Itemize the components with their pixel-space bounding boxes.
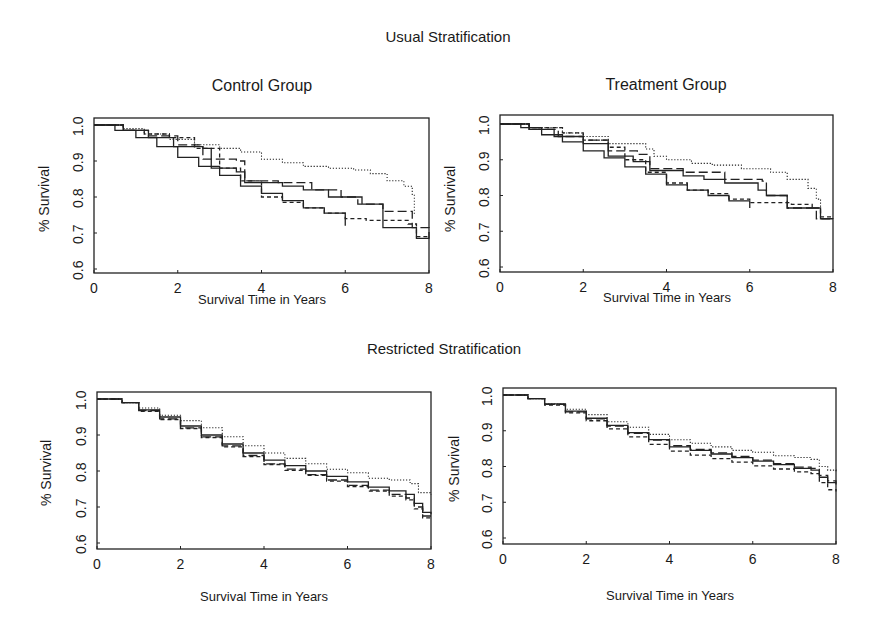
survival-curve-stratum-dotted <box>503 395 836 472</box>
plot-frame <box>500 115 833 272</box>
plot-frame <box>97 392 431 549</box>
survival-curve-stratum-solid-b <box>500 124 750 208</box>
survival-curve-stratum-solid-a <box>500 124 833 219</box>
plot-frame <box>503 388 836 544</box>
plot-restricted-control <box>97 392 431 549</box>
plot-usual-control <box>94 118 429 273</box>
survival-plots <box>0 0 874 630</box>
survival-curve-stratum-dotted <box>97 399 431 494</box>
survival-curve-stratum-longdash <box>500 124 833 219</box>
survival-curve-stratum-dotted <box>94 125 414 215</box>
survival-curve-stratum-shortdash <box>94 125 429 238</box>
survival-curve-stratum-shortdash <box>97 399 431 520</box>
plot-restricted-treatment <box>503 388 836 544</box>
survival-curve-stratum-shortdash <box>500 124 833 219</box>
survival-curve-stratum-solid-b <box>94 125 345 226</box>
plot-usual-treatment <box>500 115 833 272</box>
survival-curve-stratum-dotted <box>500 124 821 213</box>
